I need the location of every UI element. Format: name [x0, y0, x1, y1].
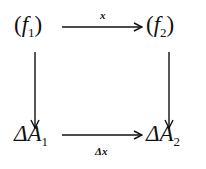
paren-close: ): [35, 12, 43, 37]
edge-label-bottom: Δx: [95, 145, 107, 157]
node-top-right: (f2): [146, 12, 174, 41]
node-bottom-right: ΔA2: [146, 121, 180, 150]
edge-label-top: x: [100, 9, 106, 21]
subscript: 1: [42, 134, 49, 149]
paren-open: (: [146, 12, 154, 37]
node-top-left: (f1): [14, 12, 42, 41]
delta: Δ: [14, 121, 28, 146]
node-bottom-left: ΔA1: [14, 121, 48, 150]
symbol: A: [28, 121, 42, 146]
paren-open: (: [14, 12, 22, 37]
symbol: A: [160, 121, 174, 146]
subscript: 2: [174, 134, 181, 149]
paren-close: ): [167, 12, 175, 37]
delta: Δ: [146, 121, 160, 146]
